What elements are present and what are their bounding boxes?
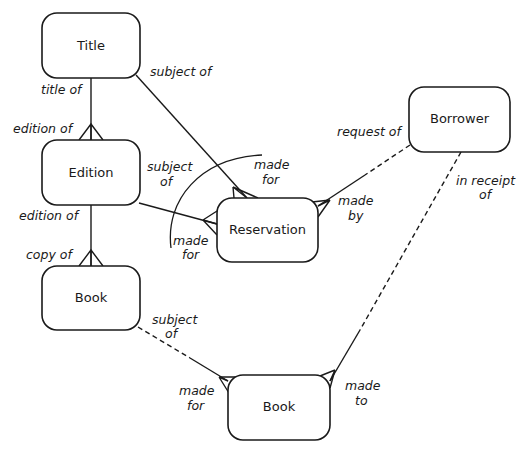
role-label: for xyxy=(182,247,200,262)
role-label: made xyxy=(179,383,215,398)
role-label: copy of xyxy=(26,247,73,262)
rel-book-bookloan-dashed xyxy=(138,327,190,358)
role-label: for xyxy=(187,398,205,413)
role-label: made xyxy=(345,378,381,393)
entity-label: Book xyxy=(75,290,108,305)
role-label: subject of xyxy=(150,64,213,79)
role-label: made xyxy=(338,193,374,208)
entity-borrower[interactable]: Borrower xyxy=(409,87,510,152)
entity-reservation[interactable]: Reservation xyxy=(217,198,318,262)
role-label: edition of xyxy=(19,208,80,223)
rel-borrower-reservation-dashed xyxy=(365,145,410,175)
truncated-caption xyxy=(18,442,248,449)
er-diagram: Title Edition Book Reservation Borrower … xyxy=(0,0,523,449)
role-label: for xyxy=(262,172,280,187)
crow-foot-icon xyxy=(79,250,103,266)
crow-foot-icon xyxy=(79,124,103,140)
role-label: request of xyxy=(337,124,402,139)
entity-title[interactable]: Title xyxy=(42,13,140,78)
crow-foot-icon xyxy=(203,211,217,235)
role-label: by xyxy=(348,208,364,223)
entity-book-loan[interactable]: Book xyxy=(228,375,330,440)
rel-borrower-bookloan-dashed xyxy=(360,152,461,330)
role-label: of xyxy=(165,326,179,341)
entity-edition[interactable]: Edition xyxy=(42,140,140,205)
role-label: subject xyxy=(152,312,198,327)
role-label: made xyxy=(254,157,290,172)
crow-foot-icon xyxy=(233,187,258,198)
entity-label: Borrower xyxy=(430,111,490,126)
rel-title-reservation xyxy=(136,75,247,198)
entity-label: Edition xyxy=(69,165,114,180)
entity-label: Title xyxy=(76,38,105,53)
role-label: made xyxy=(173,233,209,248)
role-label: in receipt xyxy=(456,173,516,188)
role-label: of xyxy=(479,187,493,202)
entity-label: Book xyxy=(263,399,296,414)
entity-label: Reservation xyxy=(229,222,306,237)
role-label: of xyxy=(160,174,174,189)
role-label: edition of xyxy=(13,121,74,136)
entity-book-copy[interactable]: Book xyxy=(42,266,140,330)
role-label: title of xyxy=(41,82,83,97)
role-label: subject xyxy=(147,159,193,174)
role-label: to xyxy=(355,393,368,408)
